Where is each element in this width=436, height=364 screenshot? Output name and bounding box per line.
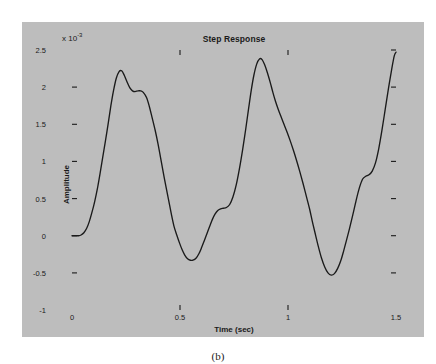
axis-ticks xyxy=(72,50,396,310)
figure-caption-a: (a) xyxy=(0,2,206,14)
figure-caption-b: (b) xyxy=(0,350,436,362)
figure-panel: Step Response x 10-3 2.5 2 1.5 1 0.5 0 -… xyxy=(22,22,424,337)
plot-canvas xyxy=(22,22,424,337)
step-response-curve xyxy=(72,52,396,275)
